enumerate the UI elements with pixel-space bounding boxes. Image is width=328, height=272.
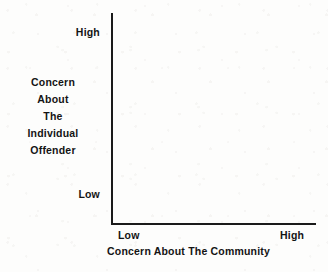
y-axis-title-line-5: Offender [8, 144, 98, 156]
y-axis-title-line-1: Concern [8, 76, 98, 88]
x-axis-tick-low: Low [118, 229, 140, 241]
y-axis-title-line-4: Individual [8, 127, 98, 139]
y-axis-title-line-3: The [8, 110, 98, 122]
x-axis-title: Concern About The Community [107, 245, 270, 257]
x-axis-tick-high: High [280, 229, 304, 241]
x-axis-line [111, 223, 316, 225]
y-axis-title-line-2: About [8, 93, 98, 105]
concern-matrix-chart: High Low Concern About The Individual Of… [0, 0, 328, 272]
y-axis-line [111, 13, 113, 225]
y-axis-tick-high: High [76, 26, 100, 38]
y-axis-tick-low: Low [78, 188, 100, 200]
y-axis-title: Concern About The Individual Offender [8, 76, 98, 156]
